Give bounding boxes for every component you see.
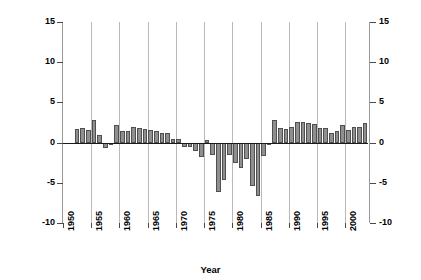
x-tick: [91, 223, 92, 228]
y-tick-label-left: 0: [50, 138, 55, 147]
bar: [131, 127, 136, 142]
x-tick: [148, 223, 149, 228]
bar: [154, 131, 159, 143]
x-axis-title: Year: [0, 264, 421, 275]
y-tick-label-left: 15: [45, 17, 55, 26]
bar: [256, 143, 261, 197]
y-tick-right: [370, 22, 376, 23]
x-tick: [261, 223, 262, 228]
y-tick-right: [370, 102, 376, 103]
y-tick-label-left: 10: [45, 57, 55, 66]
gridline: [232, 22, 233, 223]
plot-area: [63, 22, 368, 223]
bar: [126, 131, 131, 143]
y-tick-label-left: 5: [50, 97, 55, 106]
bar: [250, 143, 255, 186]
bar: [244, 143, 249, 159]
bar: [312, 124, 317, 142]
bar: [143, 129, 148, 143]
bar: [199, 143, 204, 157]
y-tick-label-right: 10: [379, 57, 389, 66]
bar: [160, 133, 165, 143]
bar: [272, 120, 277, 143]
bar: [148, 130, 153, 143]
bar: [335, 131, 340, 143]
gridline: [317, 22, 318, 223]
x-tick: [176, 223, 177, 228]
bar: [193, 143, 198, 151]
bar: [289, 127, 294, 143]
gridline: [176, 22, 177, 223]
bar: [92, 120, 97, 143]
bar: [301, 122, 306, 143]
x-tick: [289, 223, 290, 228]
x-tick: [345, 223, 346, 228]
bar: [261, 143, 266, 157]
gridline: [204, 22, 205, 223]
bar: [329, 133, 334, 143]
x-tick: [63, 223, 64, 228]
bar: [295, 122, 300, 143]
y-tick-label-right: -5: [379, 178, 387, 187]
y-tick-label-right: -10: [379, 218, 392, 227]
y-tick-right: [370, 62, 376, 63]
bar: [114, 125, 119, 143]
bar: [239, 143, 244, 168]
y-tick-label-left: -10: [42, 218, 55, 227]
bar: [278, 128, 283, 142]
bar: [75, 129, 80, 143]
bar: [233, 143, 238, 164]
bar: [137, 128, 142, 142]
bar: [120, 131, 125, 143]
gridline: [289, 22, 290, 223]
right-axis-spine: [369, 22, 370, 223]
y-tick-right: [370, 183, 376, 184]
bar: [346, 130, 351, 143]
bar: [210, 143, 215, 155]
bar: [222, 143, 227, 181]
x-tick: [232, 223, 233, 228]
gridline: [119, 22, 120, 223]
bar: [318, 128, 323, 142]
y-tick-label-right: 15: [379, 17, 389, 26]
y-tick-right: [370, 223, 376, 224]
bar: [80, 128, 85, 142]
bar: [227, 143, 232, 156]
y-tick-label-right: 5: [379, 97, 384, 106]
gridline: [148, 22, 149, 223]
bar: [352, 127, 357, 143]
zero-baseline: [63, 143, 368, 144]
bar: [306, 123, 311, 143]
y-tick-right: [370, 143, 376, 144]
x-tick: [204, 223, 205, 228]
gridline: [345, 22, 346, 223]
bar: [97, 135, 102, 143]
chart-figure: Percent Year 151050-5-10 151050-5-10 195…: [0, 0, 421, 280]
bar: [216, 143, 221, 192]
bar: [86, 130, 91, 143]
bar: [340, 125, 345, 143]
x-tick: [119, 223, 120, 228]
bar: [363, 123, 368, 142]
x-tick: [317, 223, 318, 228]
y-tick-label-right: 0: [379, 138, 384, 147]
bar: [165, 133, 170, 143]
bar: [323, 128, 328, 142]
gridline: [261, 22, 262, 223]
y-tick-label-left: -5: [47, 178, 55, 187]
bar: [284, 129, 289, 143]
bar: [357, 127, 362, 143]
